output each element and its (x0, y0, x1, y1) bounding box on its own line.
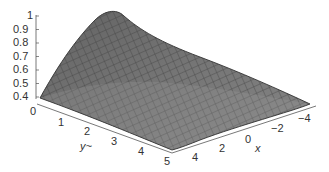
x-tick-label: 2 (219, 143, 225, 154)
y-tick-label: 5 (164, 156, 170, 167)
z-tick-label: 0.4 (13, 91, 28, 102)
surface-plot (0, 0, 329, 172)
z-tick-label: 0.6 (13, 64, 28, 75)
z-tick-label: 0.9 (13, 24, 28, 35)
x-axis-title: x (255, 143, 261, 154)
surface (0, 0, 329, 172)
x-tick-label: 4 (192, 152, 198, 163)
z-tick-label: 0.5 (13, 78, 28, 89)
x-tick-label: 0 (245, 134, 251, 145)
z-tick-label: 0.7 (13, 51, 28, 62)
z-tick-label: 1 (27, 10, 33, 21)
y-tick-label: 2 (84, 126, 90, 137)
y-tick-label: 4 (138, 146, 144, 157)
x-tick-label: −2 (271, 123, 284, 134)
y-tick-label: 0 (30, 106, 36, 117)
y-axis-title: y~ (80, 141, 92, 152)
y-tick-label: 3 (111, 136, 117, 147)
x-tick-label: −4 (298, 113, 311, 124)
z-tick-label: 0.8 (13, 37, 28, 48)
z-axis (36, 15, 39, 99)
y-tick-label: 1 (58, 117, 64, 128)
